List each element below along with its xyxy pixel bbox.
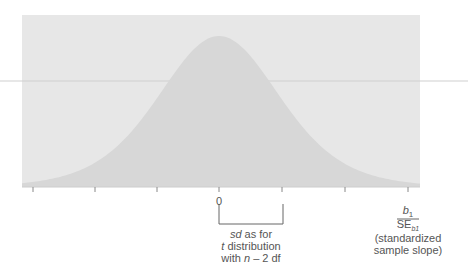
sd-bracket bbox=[219, 204, 283, 224]
sd-annotation: sd as for t distribution with n – 2 df bbox=[195, 228, 307, 264]
x-axis-ticks bbox=[33, 187, 408, 192]
tick-label-zero: 0 bbox=[212, 195, 226, 207]
x-axis-label: b1 SEb1 (standardized sample slope) bbox=[368, 204, 448, 256]
